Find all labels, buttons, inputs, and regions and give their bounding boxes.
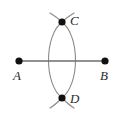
arc-centered-at-a [49, 22, 63, 98]
point-label-c: C [70, 14, 79, 27]
construction-diagram [0, 0, 123, 117]
point-label-b: B [100, 69, 108, 82]
point-dot-d [58, 94, 65, 101]
point-label-a: A [13, 69, 21, 82]
geometry-figure: A B C D [0, 0, 123, 117]
point-dot-b [101, 57, 108, 64]
point-label-d: D [70, 92, 79, 105]
point-dot-a [15, 57, 22, 64]
arc-centered-at-b [62, 22, 76, 98]
point-dot-c [58, 18, 65, 25]
